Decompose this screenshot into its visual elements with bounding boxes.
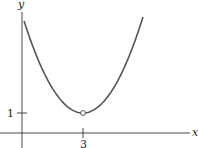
x-axis-label: x: [192, 126, 198, 139]
y-axis-label: y: [17, 0, 25, 11]
curve-line: [24, 17, 143, 113]
y-tick-label-1: 1: [7, 107, 14, 120]
open-circle-marker: [81, 111, 86, 116]
chart: x y 1 3: [0, 0, 198, 148]
x-tick-label-3: 3: [80, 138, 87, 148]
